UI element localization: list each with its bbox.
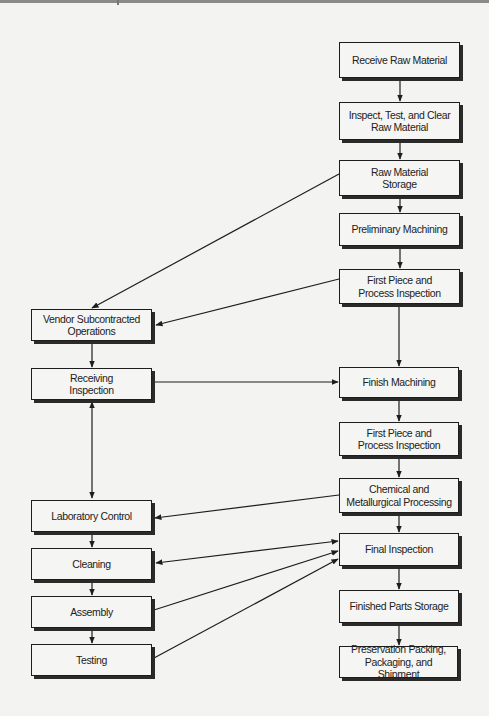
node-label: Final Inspection [365, 543, 433, 556]
node-label: Finished Parts Storage [349, 600, 448, 613]
node-label-line1: Raw Material [371, 166, 428, 179]
node-raw-material-storage: Raw Material Storage [339, 160, 460, 196]
node-finish-machining: Finish Machining [339, 367, 459, 398]
node-preliminary-machining: Preliminary Machining [339, 213, 460, 246]
node-label-line2: Inspection [69, 384, 113, 397]
node-final-inspection: Final Inspection [339, 533, 459, 566]
edge-firstpiece1-to-vendor [156, 279, 339, 325]
node-laboratory-control: Laboratory Control [31, 500, 152, 532]
node-label: Testing [76, 654, 107, 667]
node-label-line1: Chemical and [369, 483, 429, 496]
edge-testing-to-final [154, 559, 338, 658]
node-label: Finish Machining [362, 376, 435, 389]
node-label-line1: Inspect, Test, and Clear [349, 109, 451, 122]
node-cleaning: Cleaning [31, 548, 152, 580]
node-receive-raw-material: Receive Raw Material [339, 42, 460, 78]
node-label-line2: Metallurgical Processing [346, 496, 451, 509]
node-first-piece-inspection-1: First Piece and Process Inspection [339, 269, 460, 304]
node-label-line1: Vendor Subcontracted [43, 313, 140, 326]
node-label: Cleaning [72, 558, 111, 571]
node-vendor-subcontracted: Vendor Subcontracted Operations [31, 309, 152, 341]
node-label-line2: Process Inspection [358, 439, 440, 452]
node-label-line1: Receiving [70, 372, 113, 385]
node-label-line2: Process Inspection [358, 287, 440, 300]
node-preservation-packing: Preservation Packing, Packaging, and Shi… [339, 646, 458, 678]
node-label: Assembly [70, 606, 113, 619]
node-label-line1: First Piece and [367, 427, 432, 440]
node-label: Receive Raw Material [352, 54, 447, 67]
node-label-line2: Raw Material [371, 121, 428, 134]
node-label-line2: Packaging, and Shipment [343, 656, 454, 681]
node-assembly: Assembly [31, 596, 152, 628]
node-label-line1: First Piece and [367, 274, 432, 287]
node-finished-parts-storage: Finished Parts Storage [339, 590, 459, 623]
node-label-line2: Operations [68, 325, 116, 338]
node-label-line2: Storage [382, 178, 416, 191]
edge-chemical-to-lab [155, 495, 339, 518]
node-label: Preliminary Machining [352, 223, 448, 236]
node-label-line1: Preservation Packing, [351, 643, 446, 656]
node-receiving-inspection: Receiving Inspection [31, 368, 152, 400]
node-inspect-test-clear: Inspect, Test, and Clear Raw Material [339, 102, 460, 140]
node-label: Laboratory Control [51, 510, 132, 523]
node-testing: Testing [31, 644, 152, 676]
node-first-piece-inspection-2: First Piece and Process Inspection [339, 422, 459, 456]
node-chemical-metallurgical: Chemical and Metallurgical Processing [339, 478, 459, 513]
